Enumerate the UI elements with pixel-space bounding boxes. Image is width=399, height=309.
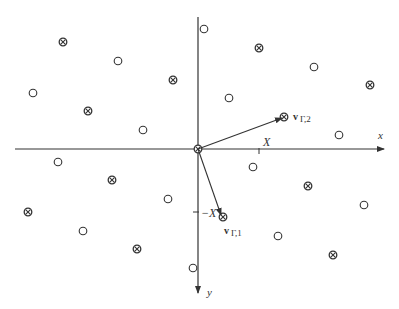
- open-circle-point: [54, 158, 62, 166]
- crossed-circle-point: [366, 81, 374, 89]
- open-circle-point: [274, 232, 282, 240]
- open-circle-point: [114, 57, 122, 65]
- basis-vectors: [198, 118, 282, 215]
- crossed-circle-point: [59, 38, 67, 46]
- open-circle-point: [200, 25, 208, 33]
- crossed-circle-point: [108, 176, 116, 184]
- open-circle-point: [310, 63, 318, 71]
- open-circle-point: [164, 195, 172, 203]
- crossed-circle-point: [24, 208, 32, 216]
- vector-symbol: v: [293, 111, 298, 122]
- vector-subscript: Γ,1: [231, 228, 242, 238]
- crossed-circle-point: [84, 107, 92, 115]
- vector-gamma-1-label: vΓ,1: [224, 225, 242, 238]
- open-circle-point: [189, 264, 197, 272]
- x-axis-label: x: [377, 129, 383, 141]
- open-circle-point: [225, 94, 233, 102]
- labels: x y X −X vΓ,2 vΓ,1: [201, 111, 383, 298]
- open-circle-point: [79, 227, 87, 235]
- axis-ticks: [193, 148, 259, 212]
- vector-symbol: v: [224, 225, 229, 236]
- x-tick-label: X: [262, 135, 271, 149]
- open-circle-point: [360, 201, 368, 209]
- crossed-circle-point: [329, 251, 337, 259]
- vector-subscript: Γ,2: [300, 114, 311, 124]
- open-circle-point: [139, 126, 147, 134]
- crossed-circle-point: [169, 76, 177, 84]
- vector-gamma-2-label: vΓ,2: [293, 111, 311, 124]
- crossed-circle-point: [255, 44, 263, 52]
- axes: [15, 17, 384, 293]
- y-axis-label: y: [206, 286, 212, 298]
- open-circle-point: [335, 131, 343, 139]
- y-tick-label: −X: [201, 206, 217, 220]
- crossed-circle-point: [133, 245, 141, 253]
- lattice-diagram: x y X −X vΓ,2 vΓ,1: [0, 0, 399, 309]
- open-circle-point: [29, 89, 37, 97]
- diagram-canvas: x y X −X vΓ,2 vΓ,1: [0, 0, 399, 309]
- open-circle-point: [249, 163, 257, 171]
- crossed-circle-point: [304, 182, 312, 190]
- crossed-circle-point: [280, 113, 288, 121]
